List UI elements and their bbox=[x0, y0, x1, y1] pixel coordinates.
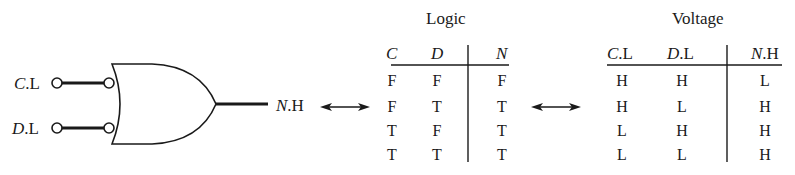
logic-cell: F bbox=[377, 98, 407, 116]
voltage-cell: L bbox=[607, 146, 637, 164]
logic-cell: T bbox=[422, 98, 452, 116]
logic-cell: T bbox=[377, 122, 407, 140]
voltage-cell: H bbox=[750, 98, 780, 116]
logic-cell: T bbox=[487, 122, 517, 140]
logic-cell: T bbox=[377, 146, 407, 164]
logic-cell: F bbox=[487, 72, 517, 90]
input-wire-d bbox=[52, 123, 114, 133]
voltage-cell: L bbox=[667, 98, 697, 116]
voltage-cell: H bbox=[750, 122, 780, 140]
logic-header-n: N bbox=[496, 44, 507, 64]
logic-cell: F bbox=[422, 122, 452, 140]
double-arrow-icon bbox=[531, 103, 581, 111]
logic-cell: F bbox=[422, 72, 452, 90]
input-label-d: D.L bbox=[12, 120, 39, 137]
logic-table-title: Logic bbox=[426, 10, 466, 27]
logic-cell: T bbox=[487, 98, 517, 116]
voltage-cell: H bbox=[667, 122, 697, 140]
input-wire-c bbox=[52, 78, 114, 88]
voltage-cell: H bbox=[667, 72, 697, 90]
voltage-header-n: N.H bbox=[751, 44, 779, 64]
voltage-table-title: Voltage bbox=[672, 10, 724, 27]
logic-cell: T bbox=[422, 146, 452, 164]
voltage-header-d: D.L bbox=[667, 44, 694, 64]
logic-header-c: C bbox=[386, 44, 397, 64]
logic-header-d: D bbox=[431, 44, 443, 64]
voltage-cell: H bbox=[750, 146, 780, 164]
or-gate-icon bbox=[112, 64, 216, 144]
voltage-cell: H bbox=[607, 98, 637, 116]
output-label-n: N.H bbox=[276, 97, 304, 114]
voltage-cell: L bbox=[607, 122, 637, 140]
voltage-cell: L bbox=[750, 72, 780, 90]
input-label-c: C.L bbox=[14, 75, 40, 92]
logic-cell: T bbox=[487, 146, 517, 164]
voltage-header-c: C.L bbox=[607, 44, 633, 64]
voltage-cell: H bbox=[607, 72, 637, 90]
logic-cell: F bbox=[377, 72, 407, 90]
double-arrow-icon bbox=[320, 103, 370, 111]
voltage-cell: L bbox=[667, 146, 697, 164]
